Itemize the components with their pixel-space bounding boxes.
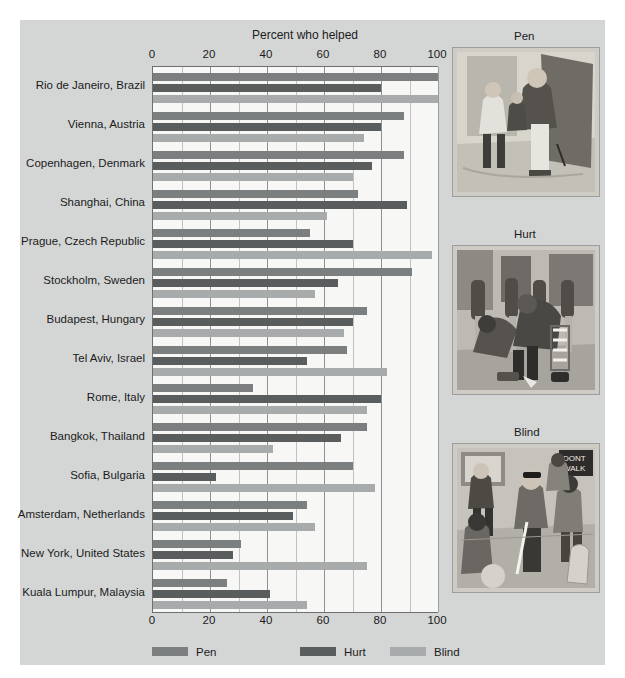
legend-item-blind[interactable]: Blind <box>390 645 460 658</box>
bar-group <box>153 501 437 534</box>
chart-row: Rome, Italy <box>20 378 445 417</box>
bar-pen <box>153 268 412 276</box>
bar-blind <box>153 562 367 570</box>
chart-row: Bangkok, Thailand <box>20 417 445 456</box>
bar-pen <box>153 423 367 431</box>
chart-row: Copenhagen, Denmark <box>20 145 445 184</box>
x-axis-bottom-line <box>152 612 438 613</box>
bar-hurt <box>153 357 307 365</box>
bar-hurt <box>153 395 381 403</box>
x-axis-tick-label: 20 <box>189 48 229 60</box>
x-axis-tick-label: 0 <box>132 48 172 60</box>
bar-blind <box>153 212 327 220</box>
bar-group <box>153 307 437 340</box>
legend-item-pen[interactable]: Pen <box>152 645 216 658</box>
category-label: Rio de Janeiro, Brazil <box>0 79 145 91</box>
category-label: Copenhagen, Denmark <box>0 157 145 169</box>
legend-label: Hurt <box>344 646 366 658</box>
bar-chart: Percent who helped 020406080100 02040608… <box>20 20 445 665</box>
bar-blind <box>153 290 315 298</box>
chart-legend: PenHurtBlind <box>152 645 452 665</box>
bar-hurt <box>153 240 353 248</box>
bar-blind <box>153 523 315 531</box>
bar-pen <box>153 229 310 237</box>
bar-blind <box>153 484 375 492</box>
category-label: New York, United States <box>0 547 145 559</box>
illustration-caption: Blind <box>452 426 600 438</box>
category-label: Sofia, Bulgaria <box>0 469 145 481</box>
x-axis-top: 020406080100 <box>152 48 437 64</box>
illustration-caption: Pen <box>452 30 600 42</box>
category-label: Vienna, Austria <box>0 118 145 130</box>
chart-row: Amsterdam, Netherlands <box>20 495 445 534</box>
chart-row: Stockholm, Sweden <box>20 262 445 301</box>
chart-row: Tel Aviv, Israel <box>20 340 445 379</box>
x-axis-tick-label: 40 <box>246 48 286 60</box>
bar-pen <box>153 579 227 587</box>
illustration-image <box>452 47 600 197</box>
bar-blind <box>153 368 387 376</box>
bar-group <box>153 229 437 262</box>
bar-hurt <box>153 551 233 559</box>
x-axis-tick-label: 100 <box>417 48 457 60</box>
chart-row: Kuala Lumpur, Malaysia <box>20 573 445 612</box>
chart-title: Percent who helped <box>160 28 450 42</box>
figure-root: Percent who helped 020406080100 02040608… <box>0 0 625 678</box>
illustration-image <box>452 245 600 395</box>
category-label: Bangkok, Thailand <box>0 430 145 442</box>
category-label: Prague, Czech Republic <box>0 235 145 247</box>
category-label: Amsterdam, Netherlands <box>0 508 145 520</box>
bar-group <box>153 384 437 417</box>
legend-label: Blind <box>434 646 460 658</box>
category-label: Kuala Lumpur, Malaysia <box>0 586 145 598</box>
chart-row: Rio de Janeiro, Brazil <box>20 67 445 106</box>
legend-swatch-hurt <box>300 647 336 656</box>
bar-blind <box>153 134 364 142</box>
bar-group <box>153 346 437 379</box>
bar-blind <box>153 173 353 181</box>
category-label: Budapest, Hungary <box>0 313 145 325</box>
bar-group <box>153 112 437 145</box>
bar-blind <box>153 95 438 103</box>
bar-blind <box>153 329 344 337</box>
bar-pen <box>153 501 307 509</box>
bar-pen <box>153 190 358 198</box>
bar-hurt <box>153 434 341 442</box>
bar-group <box>153 462 437 495</box>
bar-group <box>153 268 437 301</box>
bar-pen <box>153 346 347 354</box>
bar-group <box>153 540 437 573</box>
category-label: Shanghai, China <box>0 196 145 208</box>
legend-label: Pen <box>196 646 216 658</box>
bar-pen <box>153 462 353 470</box>
bar-hurt <box>153 473 216 481</box>
chart-row: Shanghai, China <box>20 184 445 223</box>
bar-hurt <box>153 512 293 520</box>
chart-row: New York, United States <box>20 534 445 573</box>
pen-illustration: Pen <box>452 30 600 197</box>
bar-pen <box>153 151 404 159</box>
bar-hurt <box>153 590 270 598</box>
hurt-illustration: Hurt <box>452 228 600 395</box>
x-axis-tick-label: 60 <box>303 614 343 626</box>
legend-swatch-blind <box>390 647 426 656</box>
bar-hurt <box>153 201 407 209</box>
bar-pen <box>153 307 367 315</box>
bar-group <box>153 73 437 106</box>
bar-group <box>153 190 437 223</box>
bar-hurt <box>153 84 381 92</box>
bar-group <box>153 151 437 184</box>
x-axis-tick-label: 20 <box>189 614 229 626</box>
category-label: Rome, Italy <box>0 391 145 403</box>
chart-row: Budapest, Hungary <box>20 301 445 340</box>
category-label: Tel Aviv, Israel <box>0 352 145 364</box>
bar-pen <box>153 112 404 120</box>
blind-illustration: Blind DONT WALK <box>452 426 600 593</box>
bar-hurt <box>153 162 372 170</box>
x-axis-tick-label: 0 <box>132 614 172 626</box>
bar-pen <box>153 384 253 392</box>
x-axis-tick-label: 80 <box>360 614 400 626</box>
legend-item-hurt[interactable]: Hurt <box>300 645 366 658</box>
x-axis-tick-label: 80 <box>360 48 400 60</box>
x-axis-tick-label: 60 <box>303 48 343 60</box>
